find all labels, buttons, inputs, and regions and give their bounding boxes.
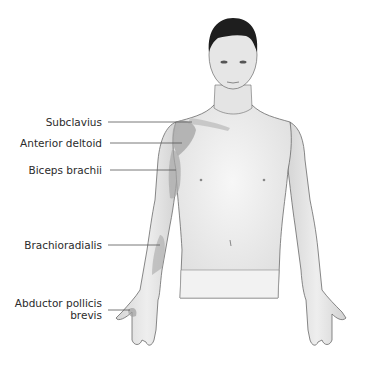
left-arm: [116, 122, 178, 345]
label-anterior-deltoid: Anterior deltoid: [20, 137, 102, 149]
label-biceps-brachii: Biceps brachii: [28, 164, 102, 176]
left-eye: [221, 60, 228, 63]
right-eye: [240, 60, 247, 63]
label-brachioradialis: Brachioradialis: [24, 239, 102, 251]
waistband: [180, 270, 279, 298]
anatomy-figure: Subclavius Anterior deltoid Biceps brach…: [0, 0, 366, 367]
label-abductor-pollicis-brevis: Abductor pollicis brevis: [15, 297, 102, 321]
right-arm: [288, 122, 346, 345]
label-line-1: Abductor pollicis: [15, 297, 102, 309]
thumb-muscle: [128, 308, 136, 317]
label-subclavius: Subclavius: [46, 116, 102, 128]
label-line-2: brevis: [15, 309, 102, 321]
